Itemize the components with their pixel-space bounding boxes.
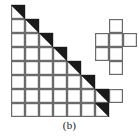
- grid-cell: [54, 90, 67, 103]
- detached-cell: [110, 48, 123, 61]
- grid-cell: [40, 48, 53, 61]
- grid-cell: [68, 90, 81, 103]
- detached-cell: [110, 20, 123, 33]
- grid-cell: [54, 62, 67, 75]
- detached-cell: [124, 34, 137, 47]
- grid-cell: [26, 34, 39, 47]
- detached-cell: [96, 34, 109, 47]
- grid-cell: [54, 104, 67, 117]
- staircase-grid-layer: [12, 6, 109, 117]
- grid-cell: [12, 62, 25, 75]
- grid-cell: [12, 76, 25, 89]
- grid-cell: [68, 104, 81, 117]
- detached-cell: [96, 48, 109, 61]
- grid-cell: [26, 104, 39, 117]
- grid-cell: [12, 34, 25, 47]
- grid-cell: [26, 76, 39, 89]
- detached-cell: [110, 34, 123, 47]
- figure-container: (b): [0, 0, 139, 140]
- grid-cell: [40, 62, 53, 75]
- grid-cell: [40, 90, 53, 103]
- grid-cell: [40, 104, 53, 117]
- detached-cell: [110, 90, 123, 103]
- figure-caption: (b): [0, 118, 139, 132]
- grid-cell: [12, 90, 25, 103]
- grid-cell: [54, 76, 67, 89]
- detached-cell: [110, 62, 123, 75]
- grid-cell: [82, 104, 95, 117]
- grid-cell: [12, 20, 25, 33]
- grid-cell: [26, 62, 39, 75]
- grid-cell: [12, 48, 25, 61]
- grid-cell: [12, 104, 25, 117]
- grid-cell: [82, 90, 95, 103]
- grid-cell: [40, 76, 53, 89]
- grid-cell: [26, 48, 39, 61]
- grid-cell: [26, 90, 39, 103]
- grid-cell: [68, 76, 81, 89]
